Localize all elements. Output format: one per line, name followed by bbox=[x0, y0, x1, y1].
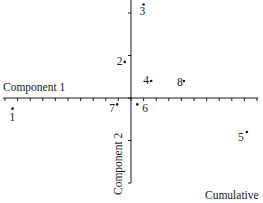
y-axis-label: Component 2 bbox=[112, 132, 125, 195]
point-label: 1 bbox=[10, 111, 16, 123]
data-point-2: 2 bbox=[117, 55, 126, 67]
point-marker bbox=[150, 80, 153, 83]
data-point-1: 1 bbox=[10, 107, 16, 122]
point-label: 3 bbox=[140, 5, 146, 17]
data-points: 12345678 bbox=[10, 3, 249, 143]
point-marker bbox=[123, 61, 126, 64]
data-point-5: 5 bbox=[238, 131, 248, 143]
point-label: 2 bbox=[117, 55, 123, 67]
point-label: 4 bbox=[143, 74, 149, 86]
point-marker bbox=[246, 131, 249, 134]
point-marker bbox=[183, 80, 186, 83]
point-marker bbox=[116, 103, 119, 106]
point-label: 7 bbox=[109, 102, 115, 114]
caption-fragment: Cumulative bbox=[205, 189, 259, 201]
x-axis-label: Component 1 bbox=[3, 81, 66, 94]
data-point-7: 7 bbox=[109, 102, 118, 114]
point-label: 5 bbox=[238, 131, 244, 143]
point-label: 6 bbox=[142, 102, 148, 114]
point-marker bbox=[136, 103, 139, 106]
data-point-8: 8 bbox=[177, 76, 185, 88]
pca-scatter-plot: 12345678 Component 1 Component 2 Cumulat… bbox=[0, 0, 263, 203]
data-point-4: 4 bbox=[143, 74, 152, 86]
point-label: 8 bbox=[177, 76, 183, 88]
data-point-3: 3 bbox=[140, 3, 146, 16]
data-point-6: 6 bbox=[136, 102, 148, 114]
point-marker bbox=[11, 107, 14, 110]
